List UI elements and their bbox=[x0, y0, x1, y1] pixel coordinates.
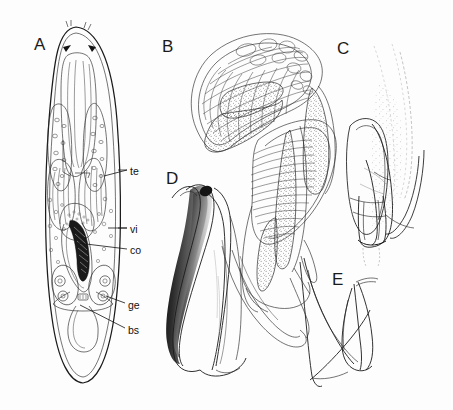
posterior-parenchyma bbox=[57, 328, 109, 370]
plate-artwork bbox=[0, 0, 453, 410]
annotation-label-co: co bbox=[130, 245, 141, 256]
panel-letter-d: D bbox=[166, 170, 179, 187]
sclerite-right-base bbox=[342, 288, 372, 371]
stylet-distal-faint-a bbox=[363, 248, 366, 266]
spine-plate-fold bbox=[220, 240, 227, 364]
panel-letter-a: A bbox=[34, 36, 46, 53]
sclerite-right-inner bbox=[354, 284, 362, 370]
sclerite-left-edge-a bbox=[304, 258, 354, 364]
panel-d-artwork bbox=[166, 184, 246, 376]
panel-c-artwork bbox=[347, 44, 425, 266]
lateral-gland-stipple bbox=[303, 88, 329, 194]
sclerite-tip-hook bbox=[356, 278, 378, 282]
spine-plate-base bbox=[200, 358, 246, 376]
stylet-faint-contour-outer bbox=[400, 52, 412, 200]
lower-duct-stipple bbox=[257, 218, 277, 291]
panel-letter-c: C bbox=[337, 40, 350, 57]
gonopore-striae bbox=[80, 295, 86, 299]
genital-atrium bbox=[53, 292, 113, 311]
vitellaria-right-follicles bbox=[91, 116, 104, 186]
panel-letter-b: B bbox=[162, 38, 174, 55]
vitellaria-right bbox=[83, 103, 107, 191]
annotation-label-ge: ge bbox=[128, 300, 140, 311]
testis-left bbox=[48, 159, 76, 230]
male-atrium-left bbox=[242, 206, 258, 312]
anterior-duct bbox=[63, 140, 70, 176]
panel-a-artwork bbox=[46, 20, 121, 383]
eyespot-right bbox=[88, 45, 96, 52]
ejaculatory-duct-stipple bbox=[275, 130, 296, 269]
annotation-label-vi: vi bbox=[130, 224, 138, 235]
panel-letter-e: E bbox=[332, 271, 344, 288]
germarium-left-cells bbox=[55, 276, 68, 301]
spine-plate-outer bbox=[230, 216, 241, 360]
figure-plate: A B C D E te vi co ge bs bbox=[0, 0, 453, 410]
leader-te bbox=[104, 170, 127, 176]
bursa-inner bbox=[73, 310, 85, 348]
anterior-bristles bbox=[66, 20, 91, 30]
panel-b-tail-edge bbox=[290, 278, 309, 338]
spine-plate-base-inner bbox=[216, 368, 240, 373]
leader-bs bbox=[80, 305, 125, 328]
bursa-outline bbox=[68, 306, 98, 352]
spine-plate-shading bbox=[214, 250, 220, 334]
pharynx-mouth bbox=[75, 173, 90, 178]
stylet-distal-faint-b bbox=[378, 248, 380, 266]
annotation-label-bs: bs bbox=[128, 325, 139, 336]
annotation-label-te: te bbox=[130, 166, 139, 177]
pharynx-lumen bbox=[68, 60, 91, 168]
male-atrium-base bbox=[240, 268, 310, 309]
eyespot-left bbox=[63, 45, 71, 52]
testis-left-striae bbox=[53, 168, 70, 224]
panel-b-artwork bbox=[191, 34, 336, 347]
sclerite-lower-join bbox=[312, 372, 348, 379]
